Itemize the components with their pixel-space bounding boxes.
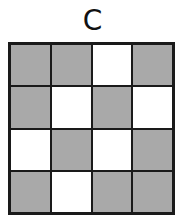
grid-cell-1-1-empty [52,87,91,127]
grid-cell-1-0-shaded [11,87,50,127]
pattern-grid [8,42,175,215]
grid-cell-2-2-empty [93,130,132,170]
grid-cell-0-3-shaded [133,45,172,85]
grid-cell-2-0-empty [11,130,50,170]
grid-cell-2-1-shaded [52,130,91,170]
grid-cell-1-2-shaded [93,87,132,127]
grid-cell-0-2-empty [93,45,132,85]
grid-cell-3-0-shaded [11,172,50,212]
option-label: C [0,6,185,36]
grid-cell-3-2-shaded [93,172,132,212]
grid-cell-3-3-shaded [133,172,172,212]
grid-cell-3-1-empty [52,172,91,212]
grid-cell-2-3-shaded [133,130,172,170]
grid-cell-0-0-shaded [11,45,50,85]
grid-cell-1-3-empty [133,87,172,127]
grid-cell-0-1-shaded [52,45,91,85]
